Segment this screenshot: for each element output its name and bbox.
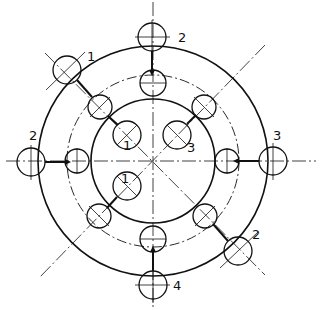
- arrow-upper-left-inner: [108, 116, 118, 125]
- label-right-outer: 3: [273, 128, 281, 143]
- flange-diagram: 2 1 2 3 2 4 1 3 1: [0, 0, 323, 310]
- label-top-outer: 2: [178, 30, 186, 45]
- arrow-lower-right: [213, 224, 228, 241]
- arrow-upper-right-inner: [187, 115, 196, 124]
- label-inner-upper-right: 3: [187, 140, 195, 155]
- arrow-upper-left: [77, 80, 92, 97]
- label-upper-left-outer: 1: [87, 49, 95, 64]
- label-inner-upper-left: 1: [123, 138, 131, 153]
- label-left-outer: 2: [29, 128, 37, 143]
- label-bottom-outer: 4: [173, 278, 181, 293]
- label-inner-lower-left: 1: [121, 171, 129, 186]
- diagonal-centerline-a: [45, 53, 265, 275]
- label-lower-right-outer: 2: [252, 227, 260, 242]
- arrow-lower-left-inner: [107, 197, 117, 208]
